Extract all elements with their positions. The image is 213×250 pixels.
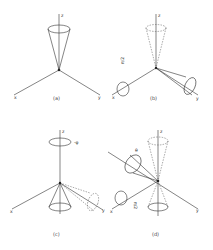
z-axis-label-b: z (158, 13, 161, 18)
z-axis-label-c: z (62, 129, 65, 134)
z-axis-label-d: z (160, 129, 163, 134)
y-axis-label-c: y (102, 208, 105, 213)
x-axis-label-a: x (14, 95, 17, 100)
panel-label-a: (a) (53, 95, 60, 101)
panel-label-b: (b) (150, 95, 157, 101)
y-axis-label-b: y (196, 96, 199, 101)
y-axis-label-a: y (98, 95, 101, 100)
euler-rotation-diagram: z x y (a) z x y π/2 (b) z x (0, 0, 213, 250)
x-axis-label-c: x (10, 209, 13, 214)
panel-a: z x y (a) (14, 13, 101, 101)
rotation-label-d: π/2 (133, 202, 138, 209)
angle-label-d: θ (135, 148, 138, 153)
rotation-label-b: π/2 (120, 57, 125, 64)
figure-caption (4, 243, 204, 246)
z-axis-label-a: z (61, 13, 64, 18)
panel-d: z x y θ π/2 (d) (108, 129, 199, 237)
panel-label-d: (d) (152, 231, 159, 237)
y-axis-label-d: y (196, 208, 199, 213)
panel-b: z x y π/2 (b) (112, 13, 199, 101)
x-axis-label-d: x (110, 209, 113, 214)
rotation-label-c: -φ (74, 140, 79, 145)
x-axis-label-b: x (112, 95, 115, 100)
panel-c: z x y -φ (c) (10, 129, 105, 237)
panel-label-c: (c) (53, 231, 60, 237)
